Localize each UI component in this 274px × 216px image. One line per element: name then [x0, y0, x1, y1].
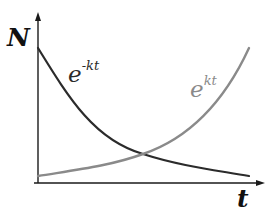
exponential-chart [0, 0, 274, 216]
decay-label-base: e [68, 61, 82, 87]
decay-label-exponent: -kt [82, 58, 100, 73]
decay-curve-label: e-kt [68, 63, 99, 86]
x-axis-label: t [237, 186, 249, 211]
y-axis-label: N [7, 25, 30, 50]
y-axis-arrow-icon [35, 12, 41, 21]
growth-curve-label: ekt [190, 78, 217, 101]
x-axis-arrow-icon [256, 180, 265, 186]
growth-label-exponent: kt [204, 73, 217, 88]
growth-label-base: e [190, 76, 204, 102]
